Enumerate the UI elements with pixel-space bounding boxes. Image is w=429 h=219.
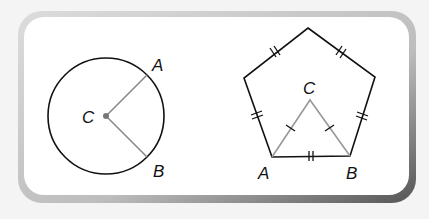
figure-canvas: C A B C A — [0, 0, 429, 219]
center-dot — [103, 113, 109, 119]
label-center-c: C — [82, 108, 95, 127]
label-vertex-a: A — [257, 164, 269, 183]
label-point-b: B — [153, 162, 164, 181]
label-vertex-b: B — [346, 164, 357, 183]
label-apex-c: C — [303, 79, 316, 98]
label-point-a: A — [151, 56, 163, 75]
